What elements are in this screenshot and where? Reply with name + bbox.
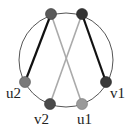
label-v2: v2 xyxy=(34,111,49,127)
node-top-left xyxy=(46,9,57,20)
node-top-right xyxy=(77,9,88,20)
edge-top-left-to-u2 xyxy=(25,14,51,82)
node-u1 xyxy=(77,99,88,110)
label-v1: v1 xyxy=(110,85,125,101)
node-v2 xyxy=(45,99,56,110)
edge-top-right-to-v1 xyxy=(82,14,106,82)
node-u2 xyxy=(20,77,31,88)
label-u2: u2 xyxy=(6,85,21,101)
circle-graph-diagram: u2 v2 u1 v1 xyxy=(0,0,130,129)
label-u1: u1 xyxy=(77,111,92,127)
